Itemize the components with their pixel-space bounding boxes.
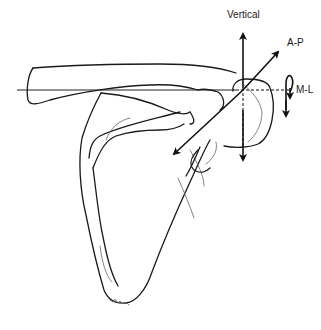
vertical-axis-label: Vertical: [227, 10, 260, 20]
ap-axis-arrow-down: [174, 90, 243, 154]
ap-axis-label: A-P: [287, 38, 304, 48]
ap-axis-arrow: [243, 52, 278, 90]
artist-signature: [110, 299, 129, 305]
scapula-diagram: [0, 0, 321, 330]
humeral-head: [224, 79, 273, 147]
ml-rotation-arrow: [286, 76, 293, 116]
acromion: [101, 89, 224, 124]
ml-axis-label: M-L: [296, 85, 313, 95]
